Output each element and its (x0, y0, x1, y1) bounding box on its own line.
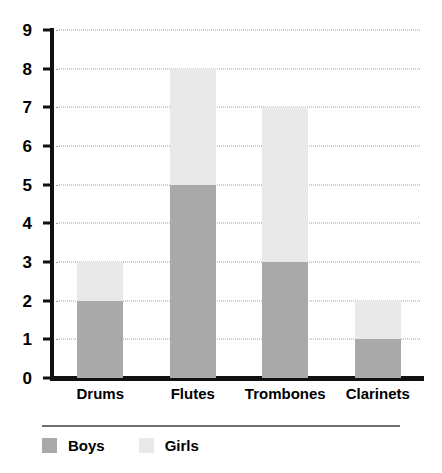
bars-layer (0, 0, 442, 400)
legend-item: Girls (139, 438, 199, 453)
bar-segment-boys (355, 339, 401, 378)
bar-segment-boys (170, 185, 216, 378)
bar-stack (77, 262, 123, 378)
legend-label: Girls (165, 438, 199, 453)
bar-segment-girls (262, 107, 308, 262)
bar-stack (355, 301, 401, 378)
legend-items: BoysGirls (42, 438, 233, 453)
chart-legend: BoysGirls (0, 420, 442, 473)
bar-segment-boys (77, 301, 123, 378)
plot-area: 0123456789 DrumsFlutesTrombonesClarinets (0, 0, 442, 400)
bar-segment-boys (262, 262, 308, 378)
bar-segment-girls (355, 301, 401, 340)
legend-swatch-girls (139, 438, 154, 453)
stacked-bar-chart: 0123456789 DrumsFlutesTrombonesClarinets… (0, 0, 442, 473)
bar-segment-girls (77, 262, 123, 301)
legend-separator (42, 425, 400, 427)
bar-stack (170, 69, 216, 378)
bar-segment-girls (170, 69, 216, 185)
legend-label: Boys (68, 438, 105, 453)
legend-item: Boys (42, 438, 105, 453)
bar-stack (262, 107, 308, 378)
x-axis-tick-label: Clarinets (318, 386, 438, 401)
legend-swatch-boys (42, 438, 57, 453)
